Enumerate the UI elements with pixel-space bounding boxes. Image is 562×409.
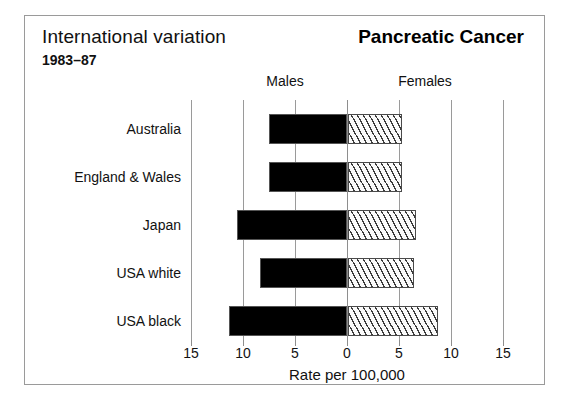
pancreatic-cancer-chart-screenshot: International variation 1983–87 Pancreat… xyxy=(0,0,562,409)
chart-title: Pancreatic Cancer xyxy=(358,26,524,48)
chart-frame xyxy=(24,15,545,385)
group-label-females: Females xyxy=(398,73,452,89)
group-label-males: Males xyxy=(266,73,303,89)
x-axis-title: Rate per 100,000 xyxy=(289,366,405,383)
chart-period-label: 1983–87 xyxy=(42,52,97,68)
chart-subtitle-international-variation: International variation xyxy=(42,26,226,48)
